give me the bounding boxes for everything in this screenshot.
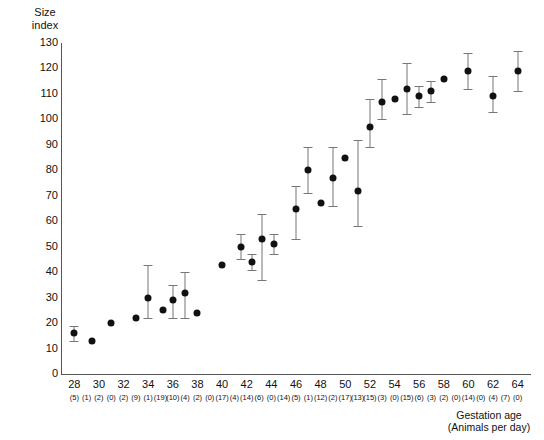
x-axis-count: (0)	[205, 393, 214, 402]
error-bar-cap-lower	[304, 193, 313, 194]
y-axis-tick: 20	[28, 316, 58, 328]
error-bar-cap-upper	[427, 81, 436, 82]
error-bar	[261, 214, 262, 280]
x-axis-count: (2)	[328, 393, 337, 402]
error-bar-cap-upper	[378, 79, 387, 80]
x-axis-tick: 60	[462, 378, 474, 390]
data-point	[490, 93, 497, 100]
y-axis-tick: 120	[28, 61, 58, 73]
error-bar-cap-lower	[415, 107, 424, 108]
y-axis-title-line2: index	[22, 19, 68, 32]
y-axis-tick: 40	[28, 265, 58, 277]
data-point	[258, 236, 265, 243]
error-bar-cap-upper	[415, 86, 424, 87]
x-axis-count-labels: (5)(1)(2)(0)(2)(9)(1)(19)(10)(4)(2)(0)(1…	[62, 393, 530, 405]
data-point	[317, 200, 324, 207]
error-bar-cap-lower	[353, 226, 362, 227]
error-bar-cap-upper	[513, 51, 522, 52]
data-point	[108, 320, 115, 327]
x-axis-count: (14)	[277, 393, 290, 402]
x-axis-count: (6)	[415, 393, 424, 402]
x-axis-count: (2)	[94, 393, 103, 402]
x-axis-count: (4)	[181, 393, 190, 402]
x-axis-count: (2)	[193, 393, 202, 402]
data-point	[329, 174, 336, 181]
x-axis-count: (5)	[291, 393, 300, 402]
data-point	[270, 241, 277, 248]
y-axis-title: Size index	[22, 6, 68, 32]
error-bar-cap-lower	[513, 91, 522, 92]
error-bar-cap-lower	[70, 341, 79, 342]
error-bar-cap-lower	[427, 102, 436, 103]
error-bar-cap-upper	[292, 186, 301, 187]
x-axis-count: (12)	[314, 393, 327, 402]
error-bar-cap-lower	[378, 119, 387, 120]
data-point	[440, 75, 447, 82]
plot-area	[62, 43, 530, 374]
data-point	[145, 294, 152, 301]
x-axis-count: (4)	[230, 393, 239, 402]
x-axis-count: (15)	[363, 393, 376, 402]
y-axis-tick: 30	[28, 291, 58, 303]
x-axis-count: (3)	[427, 393, 436, 402]
x-axis-tick: 54	[388, 378, 400, 390]
x-axis-tick: 52	[364, 378, 376, 390]
x-axis-line	[61, 374, 531, 375]
data-point	[403, 85, 410, 92]
y-axis-tick: 60	[28, 214, 58, 226]
x-axis-count: (3)	[378, 393, 387, 402]
data-point	[342, 154, 349, 161]
x-axis-title-main: Gestation age	[434, 409, 544, 421]
error-bar-cap-upper	[70, 326, 79, 327]
error-bar-cap-lower	[236, 259, 245, 260]
data-point	[379, 98, 386, 105]
data-point	[391, 96, 398, 103]
error-bar	[148, 265, 149, 318]
error-bar-cap-upper	[464, 53, 473, 54]
data-point	[237, 243, 244, 250]
y-axis-tick: 80	[28, 163, 58, 175]
data-point	[169, 297, 176, 304]
error-bar-cap-lower	[402, 114, 411, 115]
data-point	[132, 314, 139, 321]
x-axis-count: (0)	[513, 393, 522, 402]
x-axis-count: (0)	[107, 393, 116, 402]
y-axis-tick: 130	[28, 36, 58, 48]
y-axis-tick: 0	[28, 367, 58, 379]
data-point	[465, 68, 472, 75]
y-axis-title-line1: Size	[22, 6, 68, 19]
error-bar-cap-upper	[353, 140, 362, 141]
data-point	[366, 124, 373, 131]
y-axis-tick: 70	[28, 189, 58, 201]
x-axis-tick: 50	[339, 378, 351, 390]
data-point	[219, 261, 226, 268]
error-bar	[357, 140, 358, 227]
x-axis-count: (7)	[501, 393, 510, 402]
y-axis-tick: 100	[28, 112, 58, 124]
x-axis-tick: 34	[142, 378, 154, 390]
x-axis-tick: 30	[93, 378, 105, 390]
x-axis-count: (15)	[400, 393, 413, 402]
data-point	[293, 205, 300, 212]
error-bar-cap-lower	[464, 89, 473, 90]
data-point	[305, 167, 312, 174]
x-axis-tick: 48	[315, 378, 327, 390]
error-bar-cap-lower	[489, 112, 498, 113]
x-axis-count: (2)	[439, 393, 448, 402]
error-bar-cap-upper	[168, 285, 177, 286]
error-bar-cap-upper	[365, 99, 374, 100]
x-axis-tick: 28	[68, 378, 80, 390]
error-bar-cap-upper	[402, 63, 411, 64]
x-axis-count: (9)	[131, 393, 140, 402]
error-bar-cap-lower	[257, 280, 266, 281]
x-axis-tick: 46	[290, 378, 302, 390]
x-axis-count: (5)	[70, 393, 79, 402]
x-axis-title: Gestation age (Animals per day)	[434, 409, 544, 433]
y-axis-tick: 110	[28, 87, 58, 99]
data-point	[88, 337, 95, 344]
data-point	[71, 330, 78, 337]
error-bar-cap-upper	[269, 234, 278, 235]
error-bar-cap-lower	[365, 147, 374, 148]
x-axis-tick: 62	[487, 378, 499, 390]
x-axis-tick: 58	[438, 378, 450, 390]
